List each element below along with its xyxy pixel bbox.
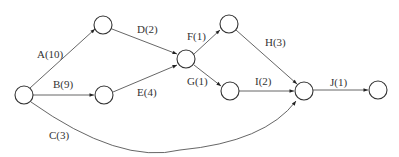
node-1 (15, 86, 33, 104)
label-g: G(1) (187, 75, 208, 88)
edge-c (31, 101, 296, 153)
activity-network-diagram: A(10) B(9) C(3) D(2) E(4) F(1) G(1) H(3)… (0, 0, 399, 157)
label-b: B(9) (53, 78, 74, 91)
node-4 (177, 50, 195, 68)
label-f: F(1) (187, 30, 206, 43)
label-j: J(1) (330, 76, 347, 89)
node-2 (94, 16, 112, 34)
label-a: A(10) (37, 48, 64, 61)
node-3 (95, 86, 113, 104)
node-8 (369, 81, 387, 99)
label-d: D(2) (137, 23, 158, 36)
node-6 (221, 82, 239, 100)
label-h: H(3) (265, 36, 286, 49)
node-7 (295, 82, 313, 100)
node-5 (220, 15, 238, 33)
label-i: I(2) (255, 75, 272, 88)
label-e: E(4) (137, 86, 157, 99)
label-c: C(3) (49, 129, 70, 142)
